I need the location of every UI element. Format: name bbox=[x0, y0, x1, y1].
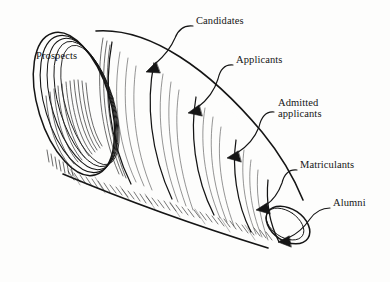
label-matriculants: Matriculants bbox=[300, 159, 354, 171]
underside-hatching bbox=[68, 169, 272, 240]
arrowhead-icon-alumni bbox=[278, 236, 291, 247]
label-candidates: Candidates bbox=[196, 15, 244, 27]
figure-root: Prospects Candidates Applicants Admitted… bbox=[0, 0, 390, 282]
label-admitted-applicants-line1: Admitted bbox=[278, 97, 318, 109]
leader-line-matriculants bbox=[266, 170, 297, 205]
stage-divider-arcs bbox=[108, 42, 279, 242]
label-admitted-applicants-line2: applicants bbox=[278, 108, 322, 120]
label-prospects: Prospects bbox=[36, 50, 77, 62]
leader-line-applicants bbox=[198, 65, 233, 107]
label-alumni: Alumni bbox=[333, 197, 366, 209]
arrowhead-icon-candidates bbox=[146, 62, 160, 73]
leader-line-candidates bbox=[155, 26, 193, 64]
leader-line-alumni bbox=[288, 208, 330, 238]
cone-funnel-icon bbox=[0, 0, 390, 282]
leader-line-admitted-applicants bbox=[237, 112, 274, 153]
label-applicants: Applicants bbox=[236, 54, 283, 66]
